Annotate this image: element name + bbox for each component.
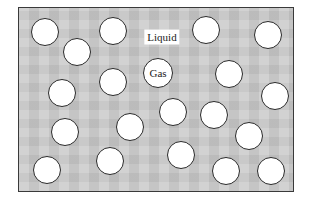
gas-particle: Gas [143,58,173,88]
liquid-particle [116,113,144,141]
liquid-particle [254,21,282,49]
liquid-particle [63,38,91,66]
liquid-particle [33,156,61,184]
liquid-particle [48,79,76,107]
liquid-particle [99,68,127,96]
liquid-particle [200,101,228,129]
liquid-particle [235,122,263,150]
liquid-label: Liquid [144,30,179,45]
liquid-particle [215,60,243,88]
liquid-particle [96,147,124,175]
liquid-particle [261,82,289,110]
liquid-particle [167,141,195,169]
liquid-particle [257,157,285,185]
liquid-particle [159,98,187,126]
gas-label: Gas [149,67,166,79]
liquid-particle [192,16,220,44]
liquid-particle [51,118,79,146]
liquid-particle [99,17,127,45]
liquid-particle [31,18,59,46]
liquid-particle [212,157,240,185]
